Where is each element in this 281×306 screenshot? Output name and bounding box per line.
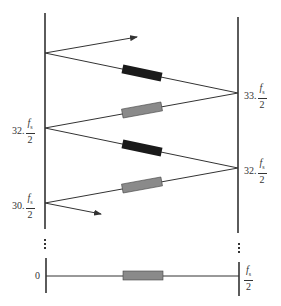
arrow-upper xyxy=(45,37,137,53)
label-den: 2 xyxy=(258,173,267,185)
filter-bar-gray-1 xyxy=(122,102,163,118)
label-coef: 0 xyxy=(35,270,40,281)
label-den: 2 xyxy=(26,133,35,145)
fraction: fs2 xyxy=(26,192,35,220)
label-coef: 32. xyxy=(12,126,25,136)
right-ellipsis-icon xyxy=(238,243,240,253)
fraction: fs2 xyxy=(244,264,253,292)
label-right-32fs2: 32.fs2 xyxy=(244,157,267,185)
diagram-canvas xyxy=(0,0,281,306)
fraction: fs2 xyxy=(258,82,267,110)
label-den: 2 xyxy=(258,98,267,110)
label-left-30fs2: 30.fs2 xyxy=(12,192,35,220)
label-den: 2 xyxy=(244,280,253,292)
label-sub: s xyxy=(249,271,251,277)
arrow-lower xyxy=(45,203,101,214)
label-right-33fs2: 33.fs2 xyxy=(244,82,267,110)
label-sub: s xyxy=(30,124,32,130)
label-den: 2 xyxy=(26,208,35,220)
label-left-0: 0 xyxy=(35,271,40,281)
label-sub: s xyxy=(262,89,264,95)
filter-bar-gray-2 xyxy=(122,177,163,193)
label-sub: s xyxy=(30,199,32,205)
label-coef: 33. xyxy=(244,91,257,101)
filter-bar-dark-2 xyxy=(122,140,163,157)
label-sub: s xyxy=(262,164,264,170)
label-coef: 32. xyxy=(244,166,257,176)
label-left-32fs2: 32.fs2 xyxy=(12,117,35,145)
label-coef: 30. xyxy=(12,201,25,211)
filter-bar-dark-1 xyxy=(122,65,163,82)
fraction: fs2 xyxy=(26,117,35,145)
filter-bar-gray-baseband xyxy=(123,271,163,280)
left-ellipsis-icon xyxy=(44,239,46,249)
fraction: fs2 xyxy=(258,157,267,185)
label-right-fs2: fs2 xyxy=(243,264,253,292)
